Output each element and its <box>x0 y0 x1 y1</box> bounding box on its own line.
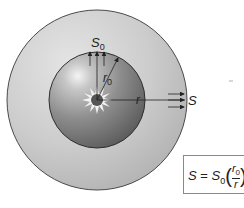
inverse-square-formula: S = S0(r0r)2 <box>188 163 244 190</box>
label-s: S <box>188 93 197 108</box>
